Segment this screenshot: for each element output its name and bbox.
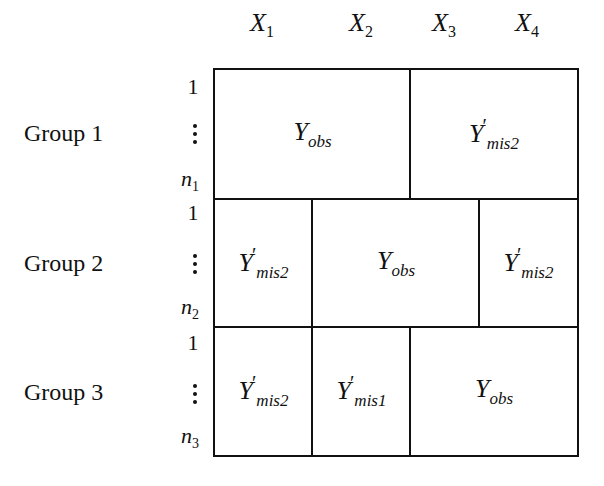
cell-group2-missing-2-right: Y′mis2 [478,198,579,329]
cell-group2-missing-2-left: Y′mis2 [213,198,314,329]
group-3-last-index: n3 [181,423,199,452]
group-2-last-index: n2 [181,294,199,323]
column-header-x3: X3 [432,8,456,41]
cell-group3-missing-2: Y′mis2 [213,326,314,457]
cell-group3-missing-1: Y′mis1 [311,326,412,457]
vertical-ellipsis-icon [193,254,197,278]
group-3-first-index: 1 [188,330,199,356]
group-2-first-index: 1 [188,200,199,226]
column-header-x1: X1 [250,8,274,41]
vertical-ellipsis-icon [193,384,197,408]
group-1-label: Group 1 [24,120,103,147]
group-3-label: Group 3 [24,379,103,406]
column-header-x4: X4 [515,8,539,41]
group-1-first-index: 1 [188,74,199,100]
vertical-ellipsis-icon [193,124,197,148]
group-2-label: Group 2 [24,250,103,277]
column-header-x2: X2 [349,8,373,41]
cell-group1-observed: Yobs [213,68,412,201]
cell-group3-observed: Yobs [409,326,579,457]
group-1-last-index: n1 [181,166,199,195]
cell-group1-missing-2: Y′mis2 [409,68,579,201]
cell-group2-observed: Yobs [311,198,481,329]
